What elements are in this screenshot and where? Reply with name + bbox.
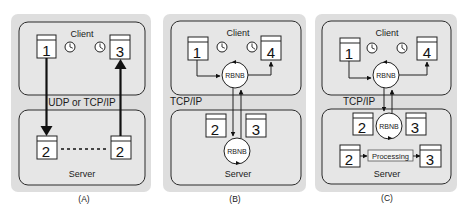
- document-2: 2: [206, 114, 226, 138]
- processing-block: Processing: [368, 150, 413, 161]
- document-2-top: 2: [353, 113, 373, 136]
- protocol-label: TCP/IP: [343, 96, 376, 107]
- clock-icon: [95, 42, 105, 52]
- svg-text:2: 2: [42, 143, 50, 160]
- svg-text:1: 1: [42, 42, 50, 59]
- document-1: 1: [37, 35, 56, 59]
- clock-icon: [217, 42, 227, 52]
- caption-b: (B): [229, 194, 241, 204]
- server-label: Server: [374, 169, 401, 179]
- server-label: Server: [69, 169, 96, 179]
- svg-text:Processing: Processing: [372, 152, 409, 161]
- panel-a: Client UDP or TCP/IP Server 1 3 2 2: [11, 14, 151, 192]
- panel-c: Client TCP/IP Server 1 4 RBNB 2: [315, 14, 457, 192]
- rbnb-server-node: RBNB: [376, 113, 402, 140]
- document-4: 4: [417, 37, 437, 61]
- server-label: Server: [225, 169, 252, 179]
- clock-icon: [247, 42, 257, 52]
- document-2-bottom: 2: [340, 145, 360, 168]
- svg-text:1: 1: [193, 44, 201, 61]
- document-1: 1: [340, 38, 360, 62]
- svg-text:2: 2: [345, 151, 353, 168]
- svg-text:3: 3: [252, 121, 260, 138]
- protocol-label: TCP/IP: [170, 96, 203, 107]
- svg-text:1: 1: [345, 45, 353, 62]
- document-3-top: 3: [406, 113, 426, 136]
- client-label: Client: [375, 28, 399, 38]
- document-1: 1: [188, 37, 208, 61]
- svg-text:2: 2: [211, 121, 219, 138]
- client-label: Client: [226, 28, 250, 38]
- svg-text:4: 4: [267, 44, 275, 61]
- client-label: Client: [70, 29, 94, 39]
- document-3: 3: [246, 114, 266, 138]
- document-2-left: 2: [37, 136, 57, 160]
- document-3: 3: [110, 35, 130, 60]
- rbnb-server-node: RBNB: [224, 138, 250, 165]
- svg-text:3: 3: [116, 43, 124, 60]
- svg-text:2: 2: [358, 119, 366, 136]
- svg-text:3: 3: [411, 119, 419, 136]
- svg-text:4: 4: [423, 44, 431, 61]
- svg-text:RBNB: RBNB: [376, 72, 396, 79]
- document-4: 4: [261, 36, 281, 61]
- panel-b: Client TCP/IP Server 1 4 RBNB 2: [163, 14, 306, 192]
- clock-icon: [397, 43, 407, 53]
- clock-icon: [65, 42, 75, 52]
- svg-text:RBNB: RBNB: [379, 123, 399, 130]
- document-2-right: 2: [111, 136, 131, 160]
- caption-c: (C): [381, 193, 393, 203]
- svg-text:3: 3: [426, 151, 434, 168]
- svg-text:RBNB: RBNB: [225, 72, 245, 79]
- svg-text:2: 2: [116, 143, 124, 160]
- svg-text:RBNB: RBNB: [227, 148, 247, 155]
- caption-a: (A): [78, 194, 90, 204]
- protocol-label: UDP or TCP/IP: [48, 97, 116, 108]
- document-3-bottom: 3: [420, 145, 441, 168]
- clock-icon: [367, 43, 377, 53]
